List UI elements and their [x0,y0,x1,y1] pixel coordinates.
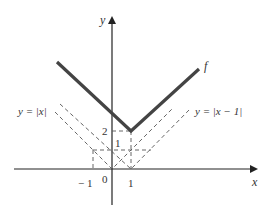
x-tick-label-1: 1 [128,177,134,189]
diagram-canvas: y x 0 − 1 1 1 2 f y = |x| y = |x − 1| [0,0,270,220]
origin-label: 0 [102,173,108,185]
y-axis-label: y [99,13,106,27]
x-axis-label: x [251,175,258,189]
graph-svg: y x 0 − 1 1 1 2 f y = |x| y = |x − 1| [0,0,270,220]
curve-label-abs-x: y = |x| [17,105,47,117]
dashed-guides [55,104,191,169]
curve-label-abs-x-minus-1: y = |x − 1| [194,105,242,117]
x-tick-label-neg1: − 1 [78,177,92,189]
y-tick-label-1: 1 [115,137,121,149]
curve-abs-x-minus-1 [60,104,191,169]
curve-abs-x [55,109,172,169]
curve-label-f: f [204,59,209,73]
y-tick-label-2: 2 [102,125,108,137]
